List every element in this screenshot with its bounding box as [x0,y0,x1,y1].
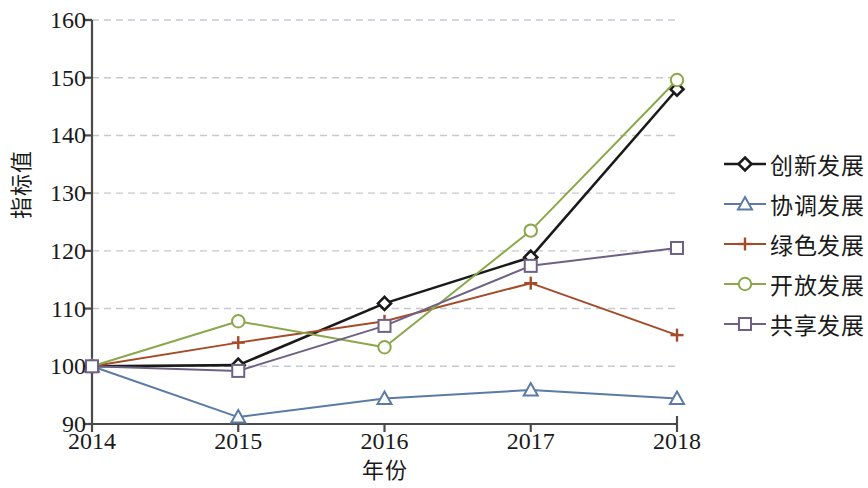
data-point-square-marker [739,318,751,330]
legend-item-4[interactable]: 开放发展 [722,264,868,304]
y-tick-label: 120 [8,237,86,264]
legend-label: 共享发展 [770,307,864,341]
data-point-plus-marker [739,238,752,251]
legend-item-2[interactable]: 协调发展 [722,184,868,224]
legend-label: 绿色发展 [770,227,864,261]
x-axis-title: 年份 [92,452,677,484]
x-tick-label: 2017 [476,428,586,455]
y-axis-tick-labels: 90100110120130140150160 [0,0,86,488]
legend-triangle-icon [722,191,768,217]
legend: 创新发展协调发展绿色发展开放发展共享发展 [722,144,868,344]
data-point-circle-marker [671,74,683,86]
legend-square-icon [722,311,768,337]
data-point-square-marker [86,360,98,372]
data-point-square-marker [232,365,244,377]
x-tick-label: 2014 [37,428,147,455]
legend-plus-icon [722,231,768,257]
legend-item-5[interactable]: 共享发展 [722,304,868,344]
legend-diamond-icon [722,151,768,177]
data-point-triangle-marker [524,383,538,396]
legend-item-1[interactable]: 创新发展 [722,144,868,184]
data-point-diamond-marker [378,297,391,310]
x-tick-label: 2018 [622,428,732,455]
data-point-plus-marker [671,329,684,342]
data-point-circle-marker [739,278,751,290]
data-point-circle-marker [378,341,390,353]
line-chart: 指标值 年份 90100110120130140150160 201420152… [0,0,868,488]
legend-label: 创新发展 [770,147,864,181]
data-point-square-marker [671,242,683,254]
y-tick-label: 140 [8,122,86,149]
legend-item-3[interactable]: 绿色发展 [722,224,868,264]
x-tick-label: 2016 [330,428,440,455]
data-point-plus-marker [232,336,245,349]
y-tick-label: 100 [8,353,86,380]
y-tick-label: 150 [8,64,86,91]
legend-label: 开放发展 [770,267,864,301]
data-point-circle-marker [232,315,244,327]
y-tick-label: 160 [8,7,86,34]
axis-lines [92,20,677,424]
x-tick-label: 2015 [183,428,293,455]
legend-label: 协调发展 [770,187,864,221]
data-point-plus-marker [524,277,537,290]
y-tick-label: 130 [8,180,86,207]
y-tick-label: 110 [8,295,86,322]
data-point-square-marker [379,320,391,332]
data-point-circle-marker [525,224,537,236]
data-point-square-marker [525,260,537,272]
legend-circle-icon [722,271,768,297]
data-point-diamond-marker [739,158,752,171]
